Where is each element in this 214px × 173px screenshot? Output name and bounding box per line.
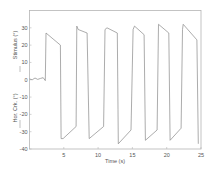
x-tick-label: 20 <box>164 152 170 158</box>
x-axis-label: Time (s) <box>105 158 125 164</box>
y-axis-label-stimulus: Stimulus (°) <box>12 31 18 60</box>
line-chart: 3020100-10-20-30-40 510152025 Time (s) S… <box>0 0 214 173</box>
x-tick-label: 5 <box>62 152 65 158</box>
y-tick-label: 30 <box>21 25 27 31</box>
y-tick-label: -10 <box>20 94 28 100</box>
x-tick-label: 15 <box>129 152 135 158</box>
data-series-line <box>30 24 199 144</box>
y-tick-label: 0 <box>24 77 27 83</box>
y-tick-label: 20 <box>21 42 27 48</box>
y-axis-label-hor-crk: Hor. Crk. (°) <box>12 93 18 122</box>
x-tick-label: 10 <box>95 152 101 158</box>
y-tick-label: -40 <box>20 146 28 152</box>
x-tick-label: 25 <box>198 152 204 158</box>
y-tick-label: 10 <box>21 59 27 65</box>
y-tick-label: -20 <box>20 111 28 117</box>
plot-frame <box>30 11 202 150</box>
y-tick-label: -30 <box>20 129 28 135</box>
